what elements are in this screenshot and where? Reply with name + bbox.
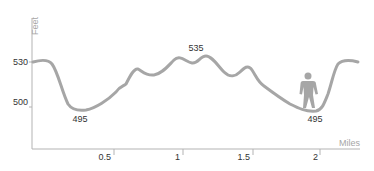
annotation-min-left: 495: [72, 114, 87, 124]
y-tick-label-530: 530: [13, 57, 28, 67]
annotation-max: 535: [188, 43, 203, 53]
x-tick-label-1.5: 1.5: [237, 152, 250, 162]
y-tick-label-500: 500: [13, 97, 28, 107]
y-axis-title: Feet: [30, 16, 40, 35]
annotation-min-right: 495: [307, 114, 322, 124]
x-axis-title: Miles: [339, 138, 361, 148]
x-tick-label-2: 2: [313, 152, 318, 162]
x-tick-label-1: 1: [175, 152, 180, 162]
x-tick-label-0.5: 0.5: [98, 152, 111, 162]
person-icon: [300, 73, 319, 109]
elevation-chart: Feet 530 500 0.5 1 1.5 2 Miles 495 535 4…: [0, 0, 374, 171]
